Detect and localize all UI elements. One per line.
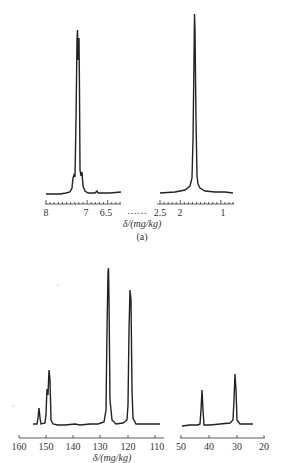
tick-label: 6.5 (100, 207, 113, 218)
top-right-spectrum (160, 14, 233, 193)
tick-label: 7 (84, 207, 89, 218)
bottom-right-axis (180, 435, 265, 438)
nmr-figure: 8 7 6.5 …… 2.5 2 1 δ/(mg/kg) (a) 160 150… (0, 0, 284, 463)
top-x-axis-label: δ/(mg/kg) (123, 218, 162, 230)
bottom-right-spectrum (182, 374, 253, 426)
top-left-axis (45, 200, 121, 204)
tick-label: 40 (204, 441, 214, 452)
tick-label: 110 (150, 441, 165, 452)
bottom-left-axis (19, 435, 164, 438)
panel-label-a: (a) (136, 231, 147, 243)
tick-label: 2.5 (154, 207, 167, 218)
bottom-x-axis-label: δ/(mg/kg) (93, 452, 132, 463)
tick-label: 160 (12, 441, 27, 452)
scan-speck (57, 284, 58, 285)
top-right-axis (157, 200, 234, 204)
tick-label: 2 (178, 207, 183, 218)
tick-label: 120 (121, 441, 136, 452)
tick-label: 130 (93, 441, 108, 452)
tick-label: 8 (44, 207, 49, 218)
top-left-spectrum (46, 30, 121, 194)
bottom-left-spectrum (33, 268, 160, 425)
tick-label: 150 (39, 441, 54, 452)
tick-label: 1 (221, 207, 226, 218)
tick-label: 30 (232, 441, 242, 452)
tick-label: 50 (176, 441, 186, 452)
axis-break: …… (127, 205, 147, 216)
scan-speck (12, 405, 13, 406)
tick-label: 20 (259, 441, 269, 452)
tick-label: 140 (66, 441, 81, 452)
